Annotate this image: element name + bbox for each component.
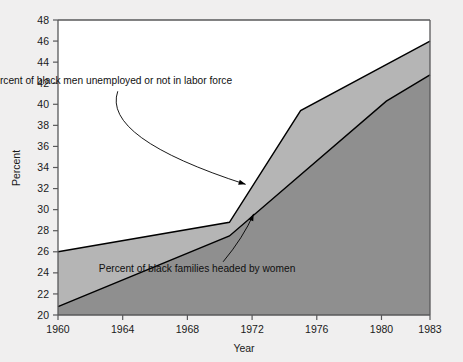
y-tick-label: 20 — [37, 309, 49, 321]
y-tick-label: 48 — [37, 14, 49, 26]
annotation-label: Percent of black men unemployed or not i… — [0, 75, 232, 86]
y-tick-label: 38 — [37, 119, 49, 131]
y-tick-label: 44 — [37, 56, 49, 68]
chart-figure: 202224262830323436384042444648 196019641… — [0, 0, 463, 362]
y-tick-label: 26 — [37, 245, 49, 257]
y-tick-label: 22 — [37, 288, 49, 300]
x-tick-label: 1972 — [240, 323, 264, 335]
x-tick-label: 1983 — [418, 323, 442, 335]
y-tick-label: 40 — [37, 98, 49, 110]
y-tick-label: 28 — [37, 224, 49, 236]
y-tick-label: 32 — [37, 182, 49, 194]
y-tick-label: 36 — [37, 140, 49, 152]
y-tick-label: 46 — [37, 35, 49, 47]
x-tick-label: 1968 — [176, 323, 200, 335]
x-tick-label: 1960 — [46, 323, 70, 335]
area-chart: 202224262830323436384042444648 196019641… — [0, 0, 463, 362]
y-tick-label: 24 — [37, 266, 49, 278]
annotation-label: Percent of black families headed by wome… — [99, 263, 296, 274]
y-axis-title: Percent — [10, 150, 22, 186]
x-tick-label: 1980 — [370, 323, 394, 335]
x-axis-title: Year — [233, 342, 255, 354]
y-tick-label: 34 — [37, 161, 49, 173]
x-tick-label: 1976 — [305, 323, 329, 335]
y-tick-label: 30 — [37, 203, 49, 215]
x-tick-label: 1964 — [111, 323, 135, 335]
